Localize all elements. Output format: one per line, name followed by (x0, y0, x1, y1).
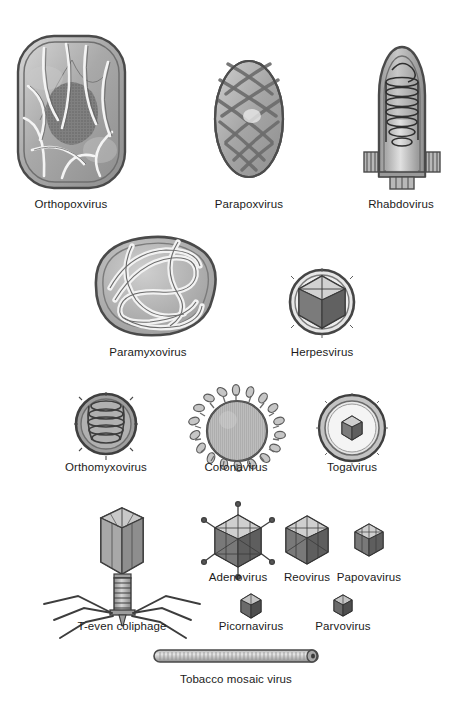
label-tobacco-mosaic-virus: Tobacco mosaic virus (180, 673, 292, 685)
adenovirus-illustration (202, 502, 275, 580)
label-orthopoxvirus: Orthopoxvirus (35, 198, 108, 210)
papovavirus-illustration (355, 524, 383, 556)
reovirus-illustration (286, 516, 328, 564)
label-rhabdovirus: Rhabdovirus (368, 198, 434, 210)
parvovirus-illustration (334, 595, 352, 616)
phage-head (101, 508, 143, 574)
label-picornavirus: Picornavirus (219, 620, 283, 632)
virus-morphology-figure: Orthopoxvirus Parapoxvirus Rhabdovirus P… (0, 0, 471, 705)
parapoxvirus-illustration (215, 61, 283, 177)
virus-illustrations (0, 0, 471, 705)
coronavirus-illustration (188, 385, 286, 473)
label-paramyxovirus: Paramyxovirus (109, 346, 186, 358)
label-herpesvirus: Herpesvirus (291, 346, 353, 358)
orthopoxvirus-illustration (18, 36, 125, 188)
label-coronavirus: Coronavirus (204, 461, 267, 473)
label-adenovirus: Adenovirus (209, 571, 268, 583)
herpesvirus-illustration (290, 268, 354, 338)
paramyxovirus-illustration (96, 237, 216, 335)
rhabdovirus-illustration (364, 47, 440, 189)
picornavirus-illustration (241, 594, 261, 618)
label-parapoxvirus: Parapoxvirus (215, 198, 283, 210)
label-papovavirus: Papovavirus (337, 571, 401, 583)
label-reovirus: Reovirus (284, 571, 330, 583)
togavirus-core (342, 416, 362, 440)
tobacco-mosaic-virus-illustration (154, 650, 318, 662)
label-orthomyxovirus: Orthomyxovirus (65, 461, 147, 473)
label-parvovirus: Parvovirus (315, 620, 370, 632)
label-t-even-coliphage: T-even coliphage (77, 620, 166, 632)
togavirus-illustration (316, 393, 388, 466)
label-togavirus: Togavirus (327, 461, 377, 473)
t-even-coliphage-illustration (44, 508, 200, 638)
orthomyxovirus-illustration (74, 392, 138, 460)
